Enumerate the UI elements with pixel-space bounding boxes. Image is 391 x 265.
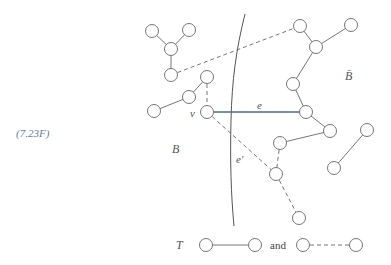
graph-diagram	[0, 0, 391, 265]
legend-conjunction: and	[270, 239, 286, 251]
non-tree-edges	[171, 26, 300, 218]
region-b-bar-label: B̄	[345, 70, 352, 82]
nodes	[146, 19, 374, 225]
edge-e-label: e	[257, 100, 262, 111]
vertex-v-label: v	[190, 108, 195, 119]
region-b-label: B	[172, 143, 179, 155]
edge-e-prime-label: e′	[236, 154, 243, 165]
cut-boundary	[231, 14, 245, 226]
figure-label: (7.23F)	[16, 127, 49, 139]
legend-tree-symbol: T	[176, 239, 183, 251]
node-v	[201, 106, 214, 119]
